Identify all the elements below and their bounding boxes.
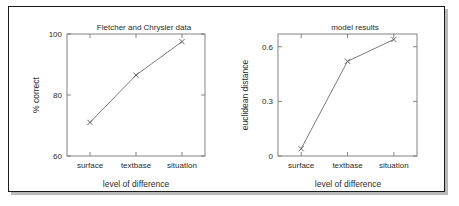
chart-panel-model-results: model results 00.30.6 surfacetextbasesit…: [231, 7, 446, 193]
figure-window: Fletcher and Chrysler data 6080100 surfa…: [8, 6, 445, 192]
data-point-markers: [87, 39, 184, 125]
y-tick-label: 0.3: [262, 97, 274, 106]
x-tick-label: textbase: [332, 161, 363, 170]
chart-title: model results: [331, 23, 379, 32]
x-tick-label: situation: [167, 161, 197, 170]
y-tick-label: 0.6: [262, 43, 274, 52]
y-tick-label: 0: [269, 152, 274, 161]
x-axis-ticks: surfacetextbasesituation: [288, 34, 409, 170]
x-axis-label: level of difference: [315, 179, 382, 189]
y-tick-label: 80: [53, 91, 62, 100]
y-axis-ticks: 6080100: [49, 30, 205, 161]
x-tick-label: textbase: [121, 161, 152, 170]
y-tick-label: 60: [53, 152, 62, 161]
data-point-markers: [299, 37, 397, 151]
data-series-line: [301, 39, 394, 148]
y-axis-ticks: 00.30.6: [262, 43, 417, 161]
line-chart-model-results: model results 00.30.6 surfacetextbasesit…: [231, 7, 446, 193]
chart-panel-fletcher-chrysler: Fletcher and Chrysler data 6080100 surfa…: [9, 7, 231, 193]
plot-frame: [278, 34, 417, 156]
y-tick-label: 100: [49, 30, 63, 39]
chart-title: Fletcher and Chrysler data: [97, 23, 192, 32]
x-tick-label: surface: [77, 161, 104, 170]
y-axis-label: % correct: [31, 76, 41, 113]
x-tick-label: situation: [379, 161, 409, 170]
y-axis-label: euclidean distance: [240, 60, 250, 131]
plot-frame: [67, 34, 205, 156]
x-tick-label: surface: [288, 161, 315, 170]
line-chart-fletcher-chrysler: Fletcher and Chrysler data 6080100 surfa…: [9, 7, 231, 193]
x-axis-label: level of difference: [103, 179, 170, 189]
data-series-line: [90, 42, 182, 123]
x-axis-ticks: surfacetextbasesituation: [77, 34, 197, 170]
